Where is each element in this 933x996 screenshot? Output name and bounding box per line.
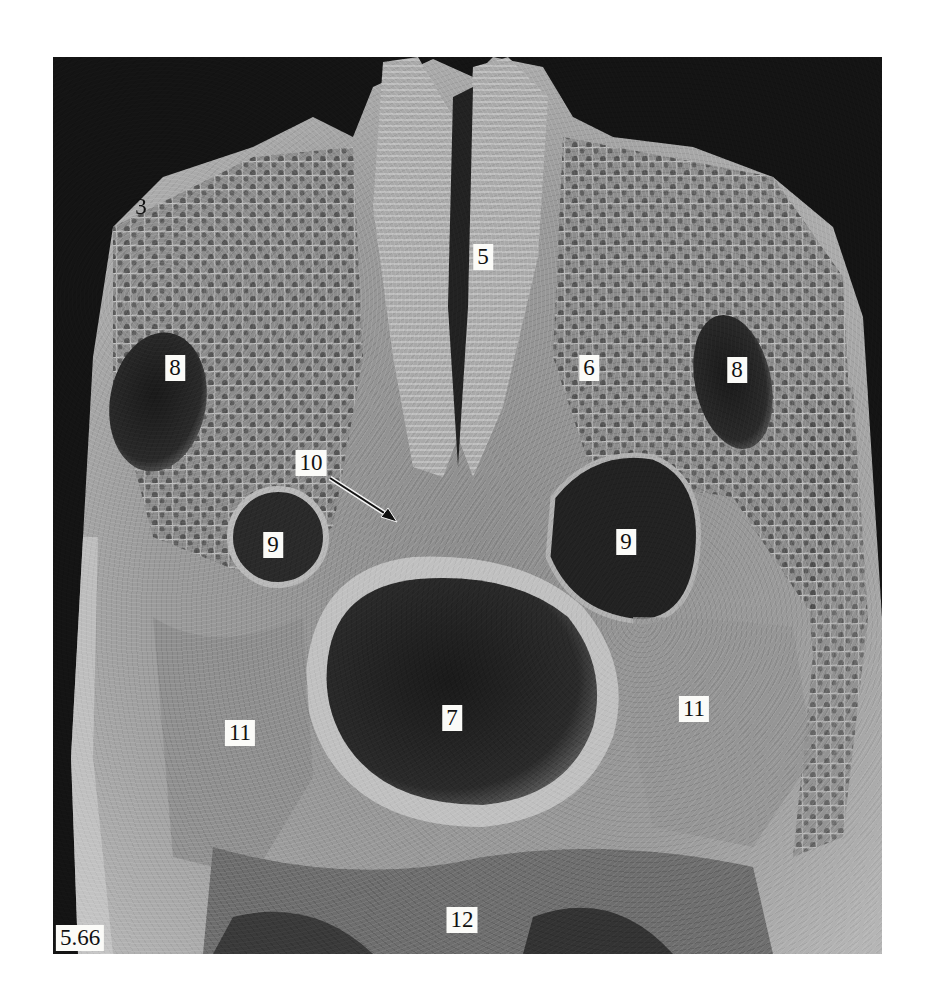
label-9-right: 9: [616, 529, 636, 555]
figure-number: 5.66: [56, 925, 104, 951]
label-5: 5: [473, 244, 493, 270]
label-11-right: 11: [679, 696, 709, 722]
micrograph-scene: [53, 57, 882, 954]
label-3: 3: [131, 194, 151, 220]
label-10: 10: [296, 450, 327, 476]
label-6: 6: [579, 355, 599, 381]
label-11-left: 11: [225, 720, 255, 746]
label-8-left: 8: [165, 355, 185, 381]
label-7: 7: [442, 705, 462, 731]
micrograph-figure: [53, 57, 882, 954]
label-8-right: 8: [727, 357, 747, 383]
label-12: 12: [447, 907, 478, 933]
label-9-left: 9: [263, 532, 283, 558]
